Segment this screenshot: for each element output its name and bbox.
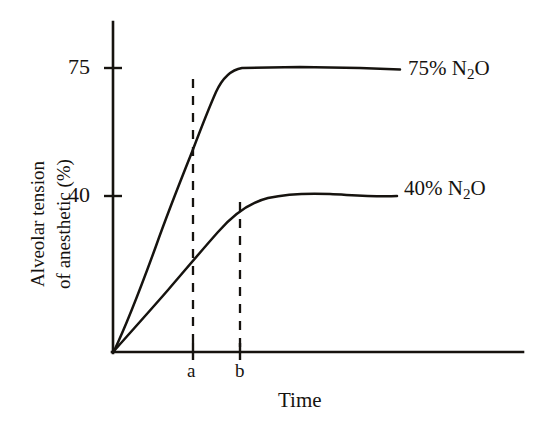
- y-axis-title-line-2: of anesthetic (%): [53, 159, 74, 289]
- series-label-40-suffix: O: [470, 176, 485, 200]
- series-label-75-suffix: O: [474, 56, 489, 80]
- x-axis-tick-label-b: b: [235, 360, 245, 382]
- series-line-75-n2o: [114, 67, 400, 351]
- series-label-40-prefix: 40% N: [404, 176, 463, 200]
- series-label-40-n2o: 40% N2O: [404, 176, 486, 203]
- y-axis-tick-label-75: 75: [68, 54, 90, 80]
- x-axis-tick-label-a: a: [187, 360, 195, 382]
- y-axis-title: Alveolar tension of anesthetic (%): [25, 109, 77, 339]
- y-axis-title-line-1: Alveolar tension: [27, 161, 48, 287]
- x-axis-title: Time: [278, 388, 322, 413]
- series-label-75-prefix: 75% N: [408, 56, 467, 80]
- series-line-40-n2o: [114, 194, 397, 351]
- chart-figure: 75 40 a b Time Alveolar tension of anest…: [0, 0, 558, 426]
- series-label-75-n2o: 75% N2O: [408, 56, 490, 83]
